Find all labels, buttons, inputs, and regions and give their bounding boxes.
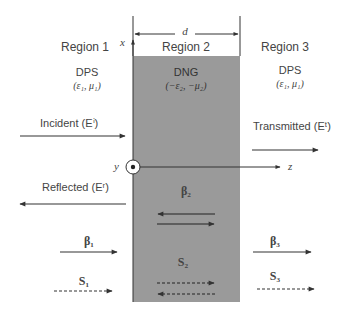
- s3-label: S₃: [270, 269, 280, 284]
- x-axis-label: x: [120, 36, 125, 48]
- region-2-label: Region 2: [162, 40, 210, 54]
- region-3-material: DPS: [279, 64, 302, 76]
- z-axis-label: z: [288, 160, 292, 172]
- s1-label: S₁: [79, 274, 89, 289]
- region-1-material: DPS: [76, 66, 99, 78]
- s2-label: S₂: [178, 255, 188, 270]
- thickness-label: d: [182, 25, 188, 37]
- region-1-params: (ε₁, μ₁): [73, 80, 101, 91]
- region-2-params: (−ε₂, −μ₂): [165, 80, 206, 91]
- region-2-material: DNG: [174, 66, 198, 78]
- beta3-label: β₃: [270, 234, 280, 249]
- region-3-params: (ε₁, μ₁): [276, 78, 304, 89]
- region-1-label: Region 1: [61, 40, 109, 54]
- beta2-label: β₂: [181, 184, 191, 199]
- reflected-label: Reflected (Eʳ): [42, 181, 109, 193]
- region-3-label: Region 3: [261, 40, 309, 54]
- incident-label: Incident (Eⁱ): [40, 117, 98, 130]
- beta1-label: β₁: [84, 234, 94, 249]
- transmitted-label: Transmitted (Eᵗ): [253, 120, 331, 132]
- y-axis-label: y: [114, 160, 119, 172]
